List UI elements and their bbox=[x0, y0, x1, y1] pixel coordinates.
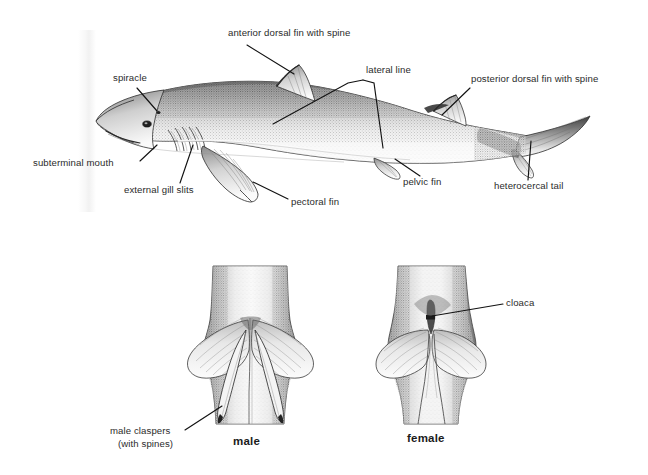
label-anterior-dorsal-fin: anterior dorsal fin with spine bbox=[228, 27, 350, 39]
shark-anatomy-figure: anterior dorsal fin with spine spiracle … bbox=[0, 0, 648, 475]
label-pelvic-fin: pelvic fin bbox=[403, 176, 441, 188]
diagram-illustration bbox=[0, 0, 648, 475]
label-spiracle: spiracle bbox=[113, 72, 147, 84]
label-external-gill-slits: external gill slits bbox=[124, 184, 194, 196]
caption-male: male bbox=[233, 435, 260, 447]
label-posterior-dorsal-fin: posterior dorsal fin with spine bbox=[471, 73, 598, 85]
pectoral-fin bbox=[202, 146, 259, 202]
label-subterminal-mouth: subterminal mouth bbox=[33, 157, 114, 169]
leader-anterior-dorsal-fin bbox=[247, 45, 294, 74]
label-pectoral-fin: pectoral fin bbox=[291, 196, 339, 208]
female-ventral-illustration bbox=[376, 262, 486, 428]
male-ventral-illustration bbox=[187, 262, 313, 428]
leader-external-gill-slits bbox=[180, 145, 193, 183]
label-lateral-line: lateral line bbox=[366, 64, 411, 76]
caption-female: female bbox=[407, 432, 445, 444]
label-male-claspers-line2: (with spines) bbox=[118, 438, 173, 450]
heterocercal-tail bbox=[474, 116, 590, 178]
shark-eye bbox=[143, 121, 152, 127]
leader-pectoral-fin bbox=[253, 182, 288, 199]
label-male-claspers-line1: male claspers bbox=[110, 425, 170, 437]
label-heterocercal-tail: heterocercal tail bbox=[494, 180, 563, 192]
label-cloaca: cloaca bbox=[506, 297, 534, 309]
